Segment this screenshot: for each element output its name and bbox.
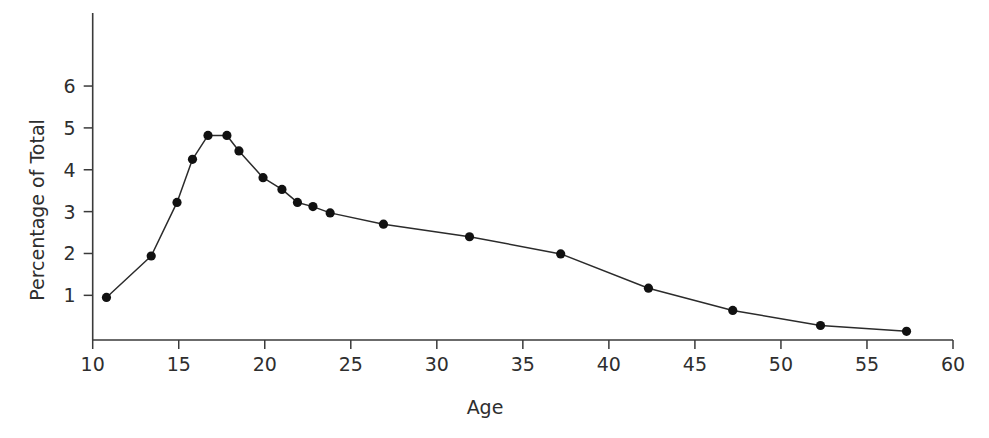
x-axis-tick-label: 40 <box>597 353 621 375</box>
y-axis-tick-label: 1 <box>64 284 76 306</box>
data-point <box>816 321 825 330</box>
data-point <box>188 155 197 164</box>
data-point <box>277 185 286 194</box>
x-axis-tick-label: 25 <box>339 353 363 375</box>
data-point <box>203 131 212 140</box>
data-points-group <box>102 131 911 336</box>
x-axis-tick-label: 35 <box>511 353 535 375</box>
ticks-group <box>84 86 953 349</box>
tick-labels-group: 1015202530354045505560123456 <box>64 75 965 375</box>
data-point <box>258 173 267 182</box>
x-axis-tick-label: 15 <box>167 353 191 375</box>
y-axis-tick-label: 2 <box>64 242 76 264</box>
x-axis-title: Age <box>467 396 504 418</box>
data-point <box>644 284 653 293</box>
y-axis-title: Percentage of Total <box>26 119 48 301</box>
data-point <box>308 202 317 211</box>
y-axis-tick-label: 4 <box>64 159 76 181</box>
data-point <box>465 232 474 241</box>
x-axis-tick-label: 45 <box>683 353 707 375</box>
x-axis-tick-label: 30 <box>425 353 449 375</box>
data-point <box>147 251 156 260</box>
data-point <box>556 249 565 258</box>
data-series-group <box>106 135 906 331</box>
axes-group <box>93 13 953 340</box>
y-axis-tick-label: 5 <box>64 117 76 139</box>
data-point <box>728 306 737 315</box>
data-point <box>902 327 911 336</box>
data-point <box>222 131 231 140</box>
y-axis-tick-label: 6 <box>64 75 76 97</box>
chart-canvas: 1015202530354045505560123456 Age Percent… <box>0 0 989 438</box>
data-point <box>326 208 335 217</box>
x-axis-tick-label: 20 <box>253 353 277 375</box>
x-axis-tick-label: 55 <box>855 353 879 375</box>
data-point <box>102 293 111 302</box>
chart-figure: 1015202530354045505560123456 Age Percent… <box>0 0 989 438</box>
data-point <box>379 220 388 229</box>
data-point <box>172 198 181 207</box>
x-axis-tick-label: 60 <box>941 353 965 375</box>
series-line-percentage-of-total <box>106 135 906 331</box>
x-axis-tick-label: 10 <box>81 353 105 375</box>
data-point <box>293 198 302 207</box>
y-axis-tick-label: 3 <box>64 201 76 223</box>
data-point <box>234 146 243 155</box>
x-axis-tick-label: 50 <box>769 353 793 375</box>
